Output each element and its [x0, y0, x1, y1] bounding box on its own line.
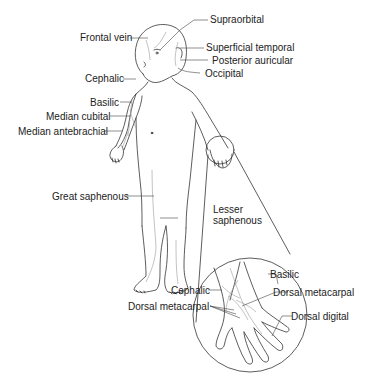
inset-label-dorsal-digital: Dorsal digital	[291, 311, 349, 322]
label-lesser-saphenous-line1: Lesser	[213, 204, 243, 215]
label-frontal-vein: Frontal vein	[80, 32, 132, 43]
label-lesser-saphenous-line2: saphenous	[213, 215, 262, 226]
label-great-saphenous: Great saphenous	[52, 191, 129, 202]
label-cephalic: Cephalic	[85, 73, 124, 84]
label-superficial-temporal: Superficial temporal	[206, 42, 294, 53]
inset-label-dorsal-metacarpal-left: Dorsal metacarpal	[128, 301, 209, 312]
inset-label-cephalic: Cephalic	[171, 285, 210, 296]
label-supraorbital: Supraorbital	[210, 14, 264, 25]
inset-label-dorsal-metacarpal-right: Dorsal metacarpal	[273, 287, 354, 298]
inset-label-basilic: Basilic	[270, 269, 299, 280]
label-occipital: Occipital	[205, 68, 243, 79]
label-median-antebrachial: Median antebrachial	[18, 126, 108, 137]
label-median-cubital: Median cubital	[46, 111, 110, 122]
label-posterior-auricular: Posterior auricular	[212, 55, 293, 66]
vein-diagram: Supraorbital Frontal vein Superficial te…	[0, 0, 366, 386]
label-basilic: Basilic	[90, 97, 119, 108]
